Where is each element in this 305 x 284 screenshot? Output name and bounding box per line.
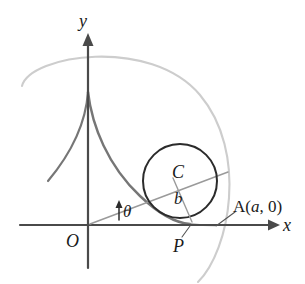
- radius-label: b: [174, 190, 183, 207]
- point-a-prefix: A(: [233, 197, 251, 216]
- point-a-suffix: , 0): [259, 197, 282, 216]
- theta-arrowhead: [116, 200, 123, 208]
- origin-label: O: [66, 232, 79, 250]
- y-axis-arrowhead: [83, 33, 94, 46]
- x-axis-label: x: [283, 216, 291, 234]
- cycloid-left-branch: [48, 92, 88, 181]
- y-axis-label: y: [79, 12, 87, 30]
- tangent-point-label: P: [173, 237, 184, 255]
- theta-ray: [90, 172, 228, 224]
- theta-label: θ: [123, 203, 131, 220]
- circle-center-label: C: [172, 163, 184, 181]
- point-a-label: A(a, 0): [233, 198, 282, 215]
- math-figure: y x O θ C b P A(a, 0): [0, 0, 305, 284]
- x-axis-arrowhead: [268, 220, 280, 231]
- figure-canvas: [0, 0, 305, 284]
- large-fixed-circle-arc: [22, 57, 229, 282]
